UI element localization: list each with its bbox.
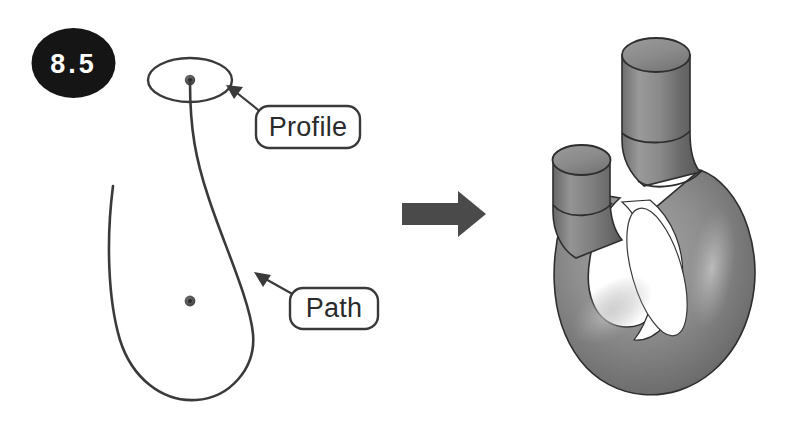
tube-front-cap [553, 145, 611, 175]
callout-profile-label: Profile [269, 112, 348, 142]
tube-rear-shaft [622, 55, 700, 186]
callout-path[interactable]: Path [290, 288, 378, 329]
transition-arrow-shape [402, 191, 486, 237]
path-curve [109, 82, 253, 400]
figure-root: 8.5 Profile [0, 0, 796, 430]
left-diagram: Profile Path [109, 58, 378, 400]
swept-hook-model [553, 38, 755, 395]
badge-label: 8.5 [50, 49, 97, 79]
callout-profile[interactable]: Profile [256, 106, 360, 148]
callout-path-label: Path [306, 293, 363, 323]
tube-rear-cap [622, 38, 690, 72]
path-center-dot-core [188, 299, 192, 303]
figure-canvas: 8.5 Profile [0, 0, 796, 430]
path-leader [254, 272, 296, 296]
profile-leader [226, 85, 262, 113]
transition-arrow [402, 191, 486, 237]
section-badge: 8.5 [32, 28, 116, 98]
